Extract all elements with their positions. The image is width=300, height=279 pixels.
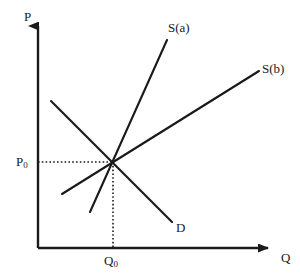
demand-curve-label: D [176, 221, 185, 234]
supply-demand-figure: P Q P0 Q0 S(a) S(b) D [0, 0, 300, 279]
equilibrium-quantity-subscript: 0 [113, 259, 118, 269]
supply-a-curve-label: S(a) [168, 21, 190, 34]
quantity-axis-label: Q [281, 251, 290, 264]
equilibrium-price-subscript: 0 [23, 160, 28, 170]
equilibrium-quantity-label: Q0 [104, 254, 118, 267]
supply-b-curve-label: S(b) [262, 62, 284, 75]
supply-curve-b [62, 71, 259, 194]
curves-group [51, 40, 259, 222]
supply-curve-a [90, 40, 167, 212]
diagram-canvas [0, 0, 300, 279]
equilibrium-quantity-letter: Q [104, 253, 113, 268]
price-axis-label: P [24, 10, 31, 23]
equilibrium-price-label: P0 [16, 155, 28, 168]
equilibrium-guides-group [38, 162, 113, 248]
